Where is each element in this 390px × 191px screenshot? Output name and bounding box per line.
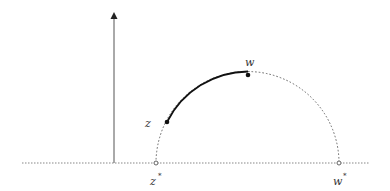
label-z: z xyxy=(144,117,151,130)
point-w xyxy=(246,73,251,78)
arrowhead-icon xyxy=(111,12,118,19)
solid-geodesic-segment xyxy=(167,72,248,123)
label-z-star: z xyxy=(149,175,156,188)
point-w-star xyxy=(337,161,341,165)
point-z-star xyxy=(154,161,158,165)
label-w: w xyxy=(245,56,255,69)
label-z-star-superscript: * xyxy=(158,172,162,180)
label-w-star-superscript: * xyxy=(343,172,347,180)
dotted-geodesic-arc xyxy=(156,72,339,163)
label-w-star: w xyxy=(333,175,343,188)
diagram-canvas: z w z * w * xyxy=(0,0,390,191)
point-z xyxy=(165,120,170,125)
